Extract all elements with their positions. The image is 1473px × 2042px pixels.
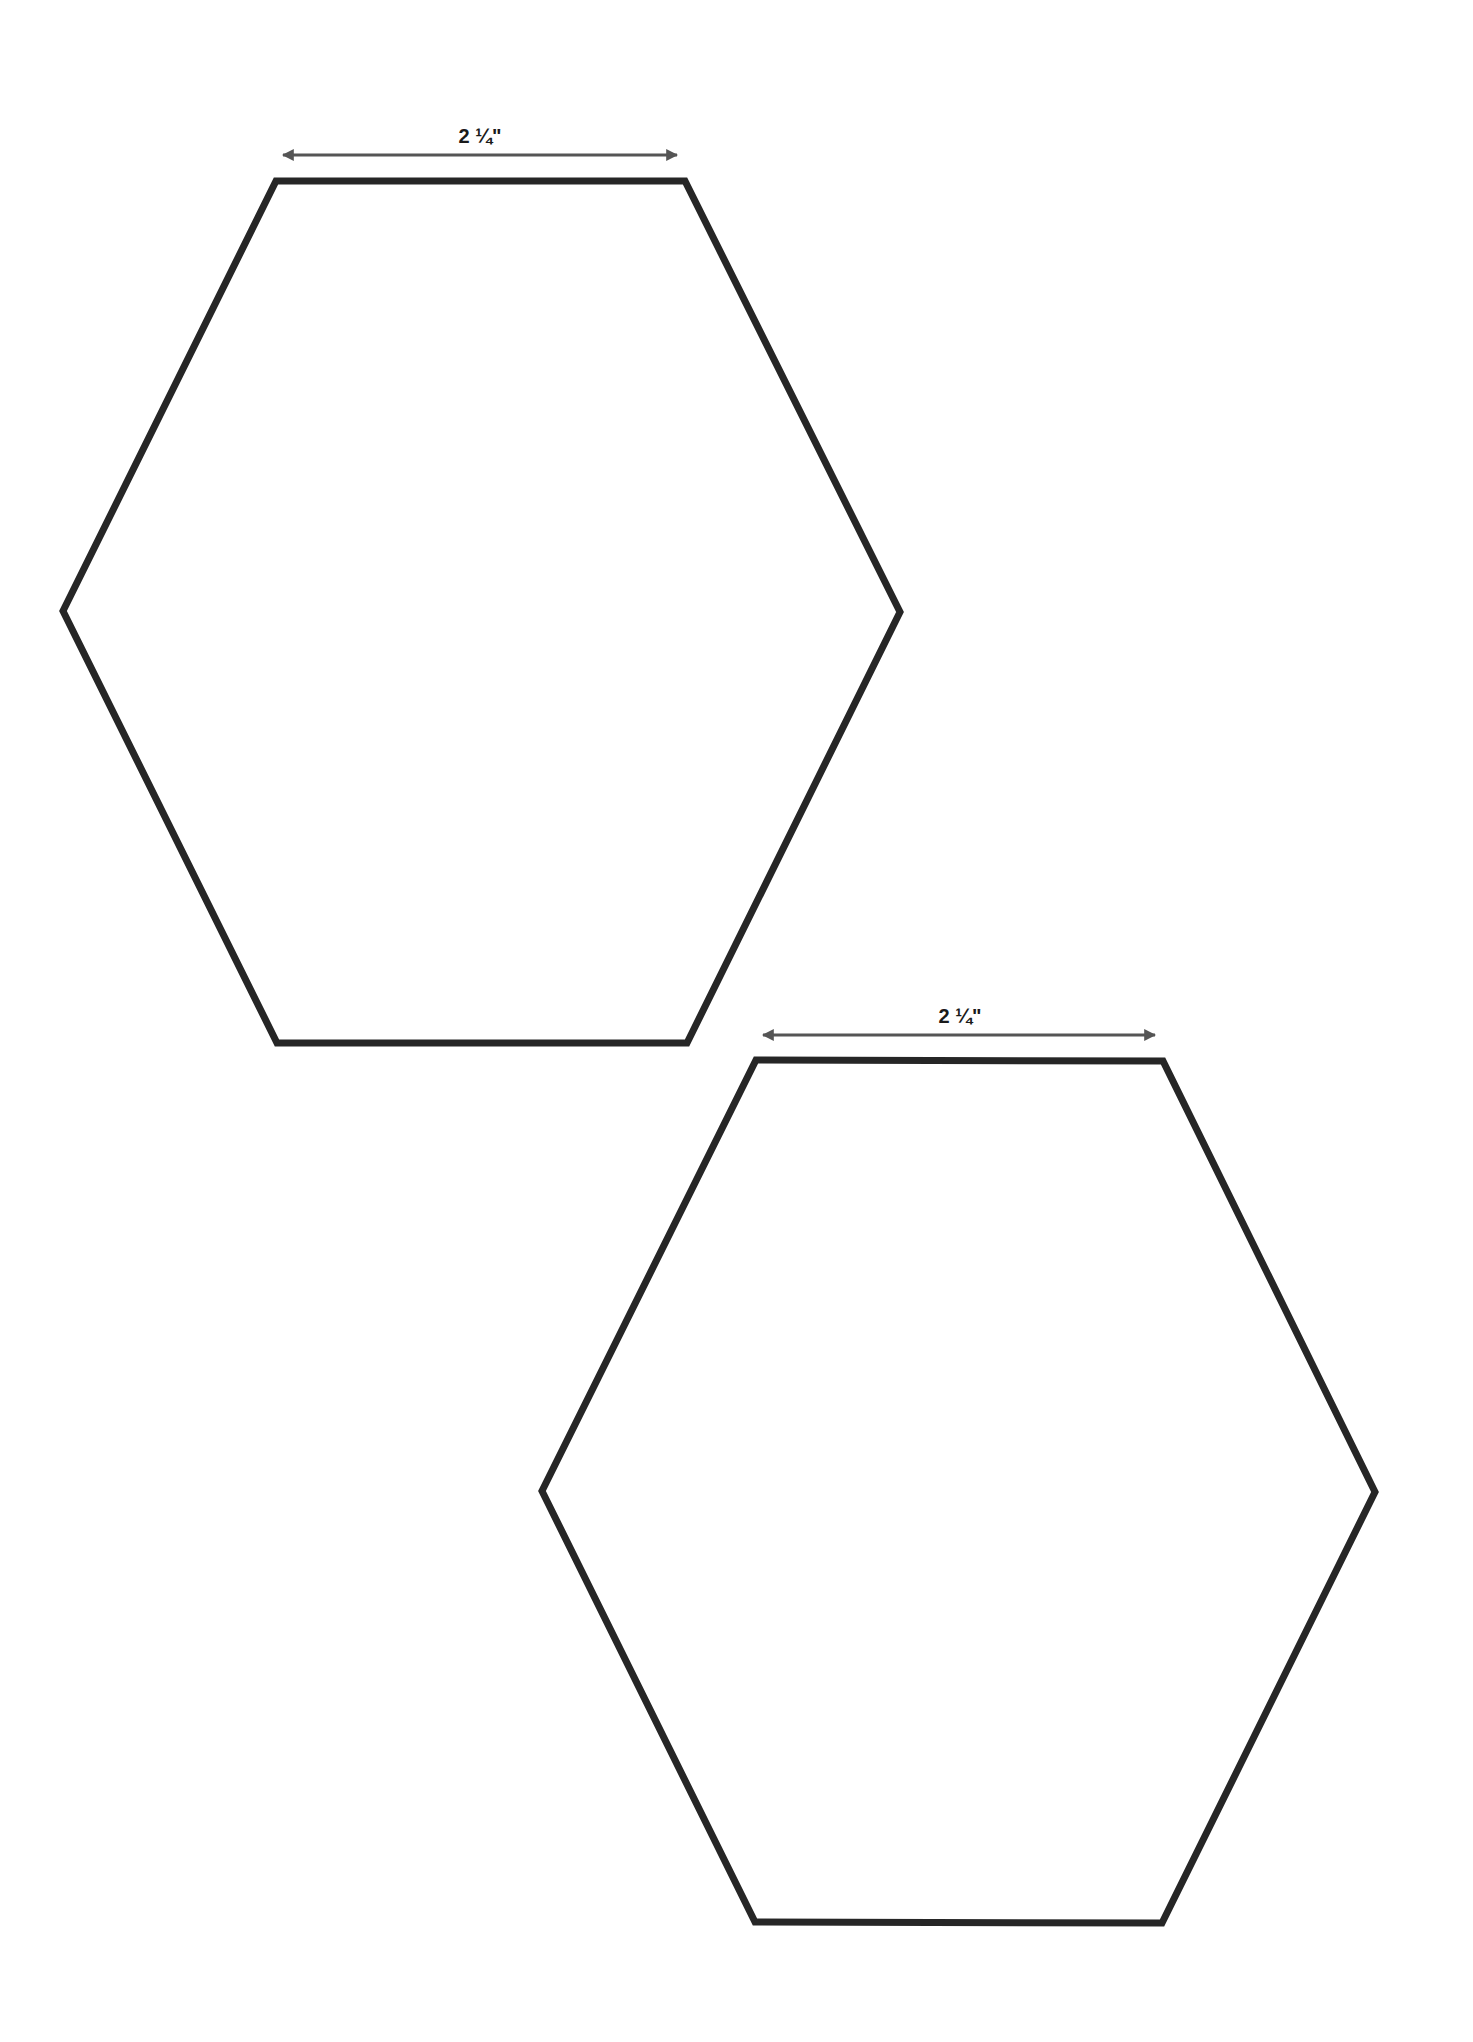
dimension-label-2: 2 ¼" xyxy=(939,1005,982,1027)
hexagon-outline-1 xyxy=(63,181,900,1043)
template-sheet: 2 ¼" 2 ¼" xyxy=(0,0,1473,2042)
hexagon-template-1: 2 ¼" xyxy=(63,125,900,1043)
dimension-label-1: 2 ¼" xyxy=(459,125,502,147)
hexagon-template-2: 2 ¼" xyxy=(542,1005,1375,1923)
hexagon-outline-2 xyxy=(542,1060,1375,1923)
